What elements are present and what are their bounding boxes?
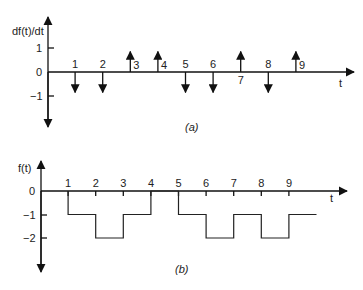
plot-b-xtick-label-5: 5 — [176, 177, 182, 189]
plot-b-xtick-label-7: 7 — [231, 177, 237, 189]
plot-b-xtick-label-2: 2 — [93, 177, 99, 189]
plot-a-xtick-label-5: 5 — [183, 58, 189, 70]
plot-a-xtick-label-4: 4 — [161, 59, 167, 71]
plot-b-xlabel: t — [330, 192, 333, 204]
plot-b-signal — [68, 191, 316, 238]
plot-a-xtick-label-7: 7 — [238, 74, 244, 86]
plot-b-ytick-label-minus1: −1 — [23, 209, 36, 221]
plot-a-caption: (a) — [185, 121, 199, 133]
plot-a-xtick-label-1: 1 — [72, 58, 78, 70]
plot-b-xtick-label-9: 9 — [286, 177, 292, 189]
plot-b-ytick-label-0: 0 — [29, 185, 35, 197]
plot-b-xtick-label-6: 6 — [203, 177, 209, 189]
plot-b-xtick-label-1: 1 — [65, 177, 71, 189]
plot-b-ytick-label-minus2: −2 — [23, 232, 36, 244]
plot-a-xtick-label-8: 8 — [265, 58, 271, 70]
plot-b-caption: (b) — [175, 263, 189, 275]
plot-a-xtick-label-6: 6 — [210, 58, 216, 70]
plot-b-ylabel: f(t) — [18, 162, 31, 174]
plot-a-ytick-label-minus1: −1 — [30, 90, 43, 102]
plot-a-ytick-label-0: 0 — [36, 66, 42, 78]
plot-a-ytick-label-1: 1 — [36, 42, 42, 54]
plot-a-xlabel: t — [339, 77, 342, 89]
plot-a-derivative: df(t)/dt 1 0 −1 t 123456789 (a) — [12, 17, 354, 133]
figure: df(t)/dt 1 0 −1 t 123456789 (a) f(t) 0 −… — [0, 0, 363, 290]
plot-b-xtick-label-8: 8 — [258, 177, 264, 189]
plot-a-xtick-label-2: 2 — [100, 58, 106, 70]
plot-b-xtick-label-3: 3 — [120, 177, 126, 189]
plot-b-xtick-label-4: 4 — [148, 177, 154, 189]
plot-b-function: f(t) 0 −1 −2 t 123456789 (b) — [18, 161, 347, 275]
plot-a-ylabel: df(t)/dt — [12, 25, 44, 37]
plot-a-xtick-label-9: 9 — [299, 59, 305, 71]
plot-a-xtick-label-3: 3 — [133, 59, 139, 71]
